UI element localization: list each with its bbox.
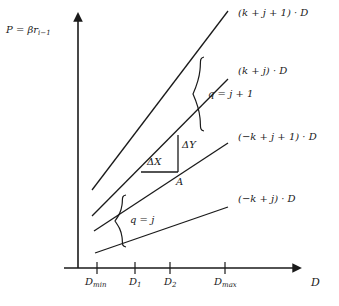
line-label-mk-j-text: (−k + j) · D bbox=[238, 193, 296, 204]
tick-label-d1-sub: 1 bbox=[137, 281, 141, 289]
tick-label-dmin-sub: min bbox=[93, 281, 106, 289]
diagram-svg bbox=[0, 0, 339, 306]
delta-y-label-text: ΔY bbox=[182, 139, 196, 150]
x-axis-label: D bbox=[311, 277, 320, 288]
line-label-k-j-1: (k + j + 1) · D bbox=[238, 8, 308, 18]
brace-lower-label-text: q = j bbox=[130, 214, 154, 225]
tick-label-d2-sub: 2 bbox=[172, 281, 176, 289]
tick-label-dmax-base: D bbox=[214, 276, 222, 287]
point-a-label: A bbox=[176, 177, 183, 187]
tick-label-d1: D1 bbox=[129, 277, 142, 289]
brace-upper-label: q = j + 1 bbox=[208, 89, 253, 99]
tick-label-dmin: Dmin bbox=[85, 277, 106, 289]
tick-label-dmax: Dmax bbox=[214, 277, 237, 289]
y-axis-label: P = βri−1 bbox=[6, 25, 51, 37]
line-mk-j bbox=[95, 207, 228, 253]
boundary-lines bbox=[92, 11, 228, 253]
tick-label-dmax-sub: max bbox=[222, 281, 237, 289]
tick-label-dmin-base: D bbox=[85, 276, 93, 287]
point-a-label-text: A bbox=[176, 176, 183, 187]
brace-upper-label-text: q = j + 1 bbox=[208, 88, 253, 99]
line-label-k-j-1-text: (k + j + 1) · D bbox=[238, 7, 308, 18]
y-axis-label-subscript: i−1 bbox=[38, 29, 51, 37]
line-label-mk-j-1: (−k + j + 1) · D bbox=[238, 132, 317, 142]
brace-lower-label: q = j bbox=[130, 215, 154, 225]
diagram-canvas: P = βri−1 D Dmin D1 D2 Dmax (k + j + 1) … bbox=[0, 0, 339, 306]
delta-x-label-text: ΔX bbox=[147, 156, 161, 167]
delta-y-label: ΔY bbox=[182, 140, 196, 150]
brace-lower bbox=[115, 195, 126, 247]
tick-label-d2-base: D bbox=[164, 276, 172, 287]
line-label-k-j: (k + j) · D bbox=[238, 66, 287, 76]
line-label-mk-j-1-text: (−k + j + 1) · D bbox=[238, 131, 317, 142]
delta-x-label: ΔX bbox=[147, 157, 161, 167]
brace-upper bbox=[193, 57, 204, 131]
tick-label-d2: D2 bbox=[164, 277, 177, 289]
tick-label-d1-base: D bbox=[129, 276, 137, 287]
line-label-mk-j: (−k + j) · D bbox=[238, 194, 296, 204]
line-label-k-j-text: (k + j) · D bbox=[238, 65, 287, 76]
y-axis-label-text: P = βr bbox=[6, 24, 38, 35]
x-axis-label-text: D bbox=[311, 276, 320, 289]
